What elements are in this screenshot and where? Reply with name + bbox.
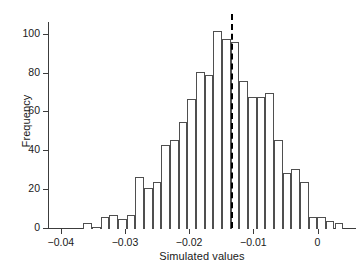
x-axis-tick-label: −0.01 [228,236,278,248]
y-axis-tick [43,34,48,35]
histogram-bar [153,182,162,229]
histogram-bar [309,217,318,229]
histogram-bar [317,217,326,229]
histogram-bar [83,223,92,229]
y-axis-tick-label: 60 [6,105,40,116]
x-axis-tick-label: −0.02 [164,236,214,248]
histogram-bar [283,173,292,229]
histogram-bar [187,99,196,229]
histogram-bar [274,140,283,229]
x-axis-tick [253,229,254,234]
histogram-bar [196,72,205,229]
histogram-bar [101,217,110,229]
y-axis-tick [43,111,48,112]
y-axis-tick-label: 20 [6,183,40,194]
histogram-bar [135,177,144,229]
x-axis-tick-label: 0 [293,236,343,248]
histogram-bar [257,97,266,229]
y-axis-tick-label: 80 [6,67,40,78]
x-axis-tick [61,229,62,234]
histogram-bar [300,182,309,229]
y-axis-tick [43,150,48,151]
y-axis-tick [43,73,48,74]
histogram-bar [118,219,127,229]
y-axis-tick [43,189,48,190]
histogram-bar [326,221,335,229]
histogram-bar [92,227,101,229]
y-axis-tick-label: 0 [6,222,40,233]
histogram-bar [109,215,118,229]
histogram-bar [248,97,257,229]
y-axis-tick-label: 100 [6,28,40,39]
y-axis-line [48,22,49,229]
caption-sliver [18,272,168,280]
histogram-bar [213,31,222,229]
y-axis-label: Frequency [20,6,34,236]
histogram-bar [127,215,136,229]
histogram-bar [335,223,344,229]
histogram-bar [265,93,274,229]
histogram-bar [144,188,153,229]
x-axis-tick [125,229,126,234]
histogram-bar [170,140,179,229]
y-axis-tick-label: 40 [6,144,40,155]
histogram-figure: Frequency Simulated values 020406080100 … [0,0,364,280]
reference-line [231,14,233,228]
x-axis-tick [318,229,319,234]
histogram-bar [291,169,300,229]
histogram-bar [179,122,188,229]
histogram-bar [222,39,231,229]
histogram-bar [161,145,170,229]
y-axis-tick [43,228,48,229]
histogram-bar [239,81,248,229]
x-axis-tick-label: −0.03 [100,236,150,248]
x-axis-tick [189,229,190,234]
x-axis-tick-label: −0.04 [36,236,86,248]
histogram-bar [205,75,214,229]
x-axis-label: Simulated values [48,250,356,262]
plot-area: 020406080100 −0.04−0.03−0.02−0.010 [48,18,356,229]
